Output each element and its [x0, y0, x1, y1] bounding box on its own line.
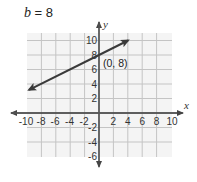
svg-text:-6: -6	[51, 116, 60, 127]
svg-text:-6: -6	[88, 151, 97, 162]
svg-text:-10: -10	[19, 116, 34, 127]
svg-text:6: 6	[91, 64, 97, 75]
svg-text:-2: -2	[88, 122, 97, 133]
point-label: (0, 8)	[103, 57, 128, 69]
svg-text:4: 4	[125, 116, 131, 127]
svg-text:10: 10	[86, 35, 98, 46]
svg-text:2: 2	[111, 116, 117, 127]
svg-text:-4: -4	[88, 137, 97, 148]
y-axis-label: y	[102, 18, 108, 30]
svg-text:10: 10	[166, 116, 178, 127]
svg-text:6: 6	[139, 116, 145, 127]
svg-text:8: 8	[154, 116, 160, 127]
svg-text:4: 4	[91, 79, 97, 90]
x-axis-label: x	[183, 99, 189, 111]
svg-text:-8: -8	[37, 116, 46, 127]
svg-text:-4: -4	[65, 116, 74, 127]
coordinate-plane: x y -10 -8 -6 -4 -2 2 4 6 8 10 10 8 6 4 …	[0, 0, 197, 182]
svg-text:2: 2	[91, 93, 97, 104]
